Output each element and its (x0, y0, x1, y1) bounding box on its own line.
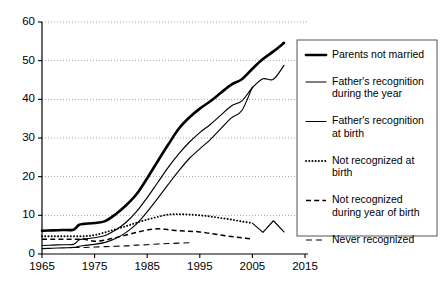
chart-canvas: 0102030405060 196519751985199520052015 P… (0, 0, 441, 282)
y-axis-ticks: 0102030405060 (22, 15, 42, 259)
x-tick-label-2015: 2015 (292, 260, 318, 272)
y-tick-label-50: 50 (22, 54, 35, 66)
y-tick-label-20: 20 (22, 170, 35, 182)
y-tick-label-40: 40 (22, 92, 35, 104)
series-line-2 (42, 87, 252, 249)
series-line-3 (42, 214, 252, 236)
y-tick-label-30: 30 (22, 131, 35, 143)
y-tick-label-60: 60 (22, 15, 35, 27)
legend-label-0-0: Parents not married (332, 48, 424, 60)
legend-label-4-0: Not recognized (332, 193, 403, 205)
legend-label-4-1: during year of birth (332, 206, 420, 218)
legend-label-2-0: Father's recognition (332, 114, 424, 126)
y-tick-label-0: 0 (29, 247, 35, 259)
legend-label-3-0: Not recognized at (332, 154, 414, 166)
series-line-6 (252, 221, 284, 233)
chart-legend: Parents not marriedFather's recognitiond… (297, 40, 437, 245)
gridlines (42, 22, 308, 215)
y-tick-label-10: 10 (22, 208, 35, 220)
x-tick-label-1965: 1965 (29, 260, 55, 272)
series-line-0 (42, 43, 284, 231)
legend-label-2-1: at birth (332, 127, 364, 139)
legend-label-1-0: Father's recognition (332, 75, 424, 87)
x-tick-label-1975: 1975 (82, 260, 108, 272)
legend-label-1-1: during the year (332, 87, 403, 99)
line-chart: 0102030405060 196519751985199520052015 P… (0, 0, 441, 282)
x-tick-label-2005: 2005 (240, 260, 266, 272)
x-axis-ticks: 196519751985199520052015 (29, 254, 318, 272)
series-line-1 (42, 65, 284, 245)
legend-label-5-0: Never recognized (332, 233, 414, 245)
x-tick-label-1985: 1985 (134, 260, 160, 272)
x-tick-label-1995: 1995 (187, 260, 213, 272)
plot-series (42, 43, 284, 249)
legend-label-3-1: birth (332, 166, 353, 178)
